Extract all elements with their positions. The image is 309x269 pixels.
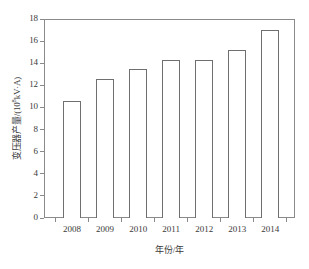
x-axis-tick-mark (253, 218, 254, 222)
bar (195, 60, 213, 218)
x-axis-tick-label: 2014 (261, 223, 279, 235)
x-axis-tick-mark (88, 218, 89, 222)
bars-layer (44, 19, 295, 218)
x-axis-tick-mark (154, 218, 155, 222)
x-axis-tick-label: 2011 (162, 223, 180, 235)
x-axis-tick-mark (286, 218, 287, 222)
y-axis-tick-label: 16 (29, 34, 38, 47)
x-axis-tick-label: 2012 (195, 223, 213, 235)
bar (228, 50, 246, 218)
y-axis-tick-label: 10 (29, 100, 38, 113)
bar (129, 69, 147, 218)
x-axis-tick-label: 2013 (228, 223, 246, 235)
y-axis-tick-label: 8 (34, 123, 38, 136)
y-axis-tick-label: 18 (29, 12, 38, 25)
x-axis-tick-mark (187, 218, 188, 222)
x-axis-tick-label: 2010 (129, 223, 147, 235)
bar (261, 30, 279, 218)
y-axis-tick-label: 14 (29, 56, 38, 69)
y-axis-tick-label: 4 (34, 167, 38, 180)
y-axis: 024681012141618 (0, 19, 44, 218)
y-axis-tick-label: 0 (34, 211, 38, 224)
x-axis-title: 年份/年 (44, 243, 295, 256)
y-axis-tick-label: 2 (34, 189, 38, 202)
y-axis-tick-label: 12 (29, 78, 38, 91)
x-axis-tick-mark (55, 218, 56, 222)
x-axis-tick-label: 2009 (96, 223, 114, 235)
bar (162, 60, 180, 218)
bar (63, 101, 81, 218)
bar (96, 79, 114, 218)
bar-chart: 变压器产量/(108kV·A) 024681012141618 20082009… (0, 0, 309, 269)
y-axis-tick-label: 6 (34, 145, 38, 158)
x-axis: 2008200920102011201220132014 (44, 218, 295, 242)
x-axis-tick-label: 2008 (63, 223, 81, 235)
x-axis-tick-mark (220, 218, 221, 222)
x-axis-tick-mark (121, 218, 122, 222)
